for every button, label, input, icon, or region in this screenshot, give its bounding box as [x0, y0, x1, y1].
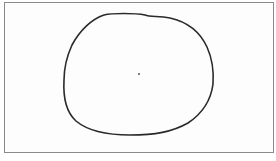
center-point [138, 73, 140, 75]
closed-curve-diagram [0, 0, 276, 161]
